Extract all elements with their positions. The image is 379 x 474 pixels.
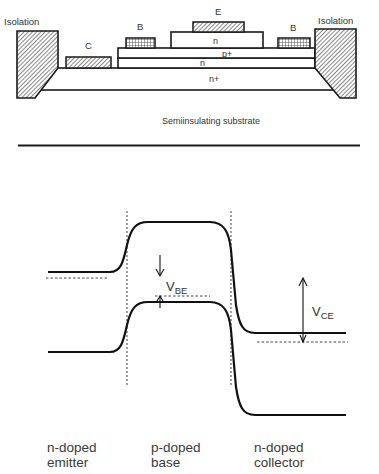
subcollector-n-plus-label: n+ bbox=[209, 74, 219, 84]
vbe-arrow-icon bbox=[156, 255, 164, 308]
collector-contact bbox=[66, 57, 111, 68]
base-name: base bbox=[151, 455, 201, 470]
valence-band bbox=[48, 302, 346, 415]
base-left-label: B bbox=[137, 21, 143, 32]
emitter-name: emitter bbox=[47, 455, 97, 470]
emitter-contact bbox=[193, 22, 244, 32]
collector-n-label: n bbox=[200, 58, 205, 68]
collector-name: collector bbox=[254, 455, 304, 470]
layer-n-plus bbox=[40, 68, 340, 90]
hbt-diagram: Isolation Isolation C B E B n p+ n n+ Se… bbox=[0, 0, 379, 474]
band-diagram: VBE VCE bbox=[46, 211, 348, 415]
substrate-label: Semiinsulating substrate bbox=[162, 116, 260, 126]
base-right-label: B bbox=[290, 22, 296, 33]
region-label-collector: n-doped collector bbox=[254, 440, 304, 470]
emitter-n-label: n bbox=[213, 36, 218, 46]
base-contact-left bbox=[126, 38, 155, 48]
base-doping: p-doped bbox=[151, 440, 201, 455]
device-cross-section: Isolation Isolation C B E B n p+ n n+ Se… bbox=[4, 6, 356, 126]
layer-base-p-plus bbox=[118, 48, 315, 58]
region-label-emitter: n-doped emitter bbox=[47, 440, 97, 470]
emitter-doping: n-doped bbox=[47, 440, 97, 455]
vbe-label: VBE bbox=[166, 279, 187, 296]
collector-contact-label: C bbox=[85, 40, 92, 51]
isolation-left-label: Isolation bbox=[4, 16, 39, 27]
isolation-right-label: Isolation bbox=[318, 15, 353, 26]
base-p-plus-label: p+ bbox=[222, 49, 232, 59]
base-contact-right bbox=[278, 38, 310, 48]
vce-label: VCE bbox=[312, 304, 334, 321]
region-label-base: p-doped base bbox=[151, 440, 201, 470]
collector-doping: n-doped bbox=[254, 440, 304, 455]
layer-collector-n bbox=[118, 58, 315, 68]
emitter-contact-label: E bbox=[215, 6, 221, 17]
